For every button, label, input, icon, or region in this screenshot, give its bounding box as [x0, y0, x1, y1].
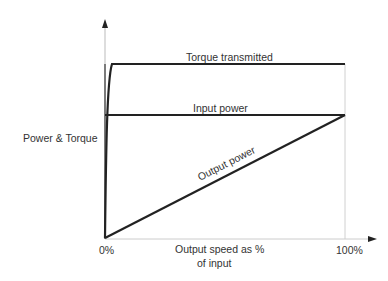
series-torque-transmitted	[105, 64, 345, 238]
x-axis-label-line2: of input	[197, 257, 231, 269]
x-axis-label-line1: Output speed as %	[175, 243, 264, 255]
label-input-power: Input power	[193, 102, 248, 114]
series-output-power	[105, 115, 345, 238]
x-tick-100: 100%	[336, 244, 363, 256]
label-torque-transmitted: Torque transmitted	[186, 51, 273, 63]
y-axis-arrow-icon	[102, 19, 108, 28]
y-axis-label: Power & Torque	[23, 132, 98, 144]
x-tick-0: 0%	[99, 244, 114, 256]
x-axis-arrow-icon	[368, 236, 377, 242]
